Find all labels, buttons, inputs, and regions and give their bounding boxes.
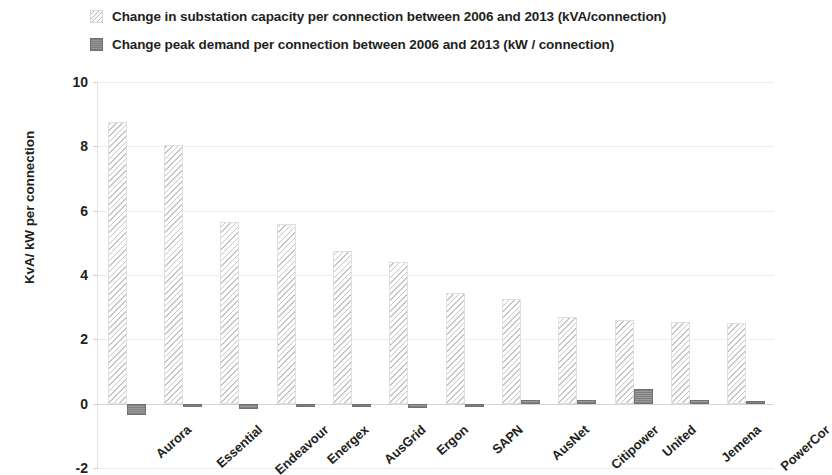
bar-capacity-sapn[interactable] xyxy=(446,293,465,404)
x-axis-label-powercor: PowerCor xyxy=(777,422,832,474)
y-tick-mark xyxy=(93,468,98,469)
bar-peak-demand-essential[interactable] xyxy=(183,404,202,407)
bar-capacity-powercor[interactable] xyxy=(727,323,746,403)
bar-capacity-essential[interactable] xyxy=(164,145,183,404)
y-tick-label: 8 xyxy=(80,138,88,154)
y-tick-label: -2 xyxy=(76,460,88,475)
bar-peak-demand-aurora[interactable] xyxy=(127,404,146,415)
bar-peak-demand-endeavour[interactable] xyxy=(239,404,258,409)
legend-item-peak-demand: Change peak demand per connection betwee… xyxy=(90,30,780,58)
plot-area: 1086420-2AuroraEssentialEndeavourEnergex… xyxy=(98,82,774,468)
bar-group xyxy=(323,82,379,468)
bar-peak-demand-sapn[interactable] xyxy=(465,404,484,407)
bar-capacity-ausgrid[interactable] xyxy=(333,251,352,404)
bar-capacity-energex[interactable] xyxy=(277,224,296,404)
bar-capacity-aurora[interactable] xyxy=(108,122,127,403)
bar-capacity-ausnet[interactable] xyxy=(502,299,521,404)
legend-swatch-capacity-icon xyxy=(90,10,103,23)
y-tick-label: 10 xyxy=(72,74,88,90)
bar-peak-demand-energex[interactable] xyxy=(296,404,315,407)
bar-capacity-endeavour[interactable] xyxy=(220,222,239,404)
legend-swatch-peak-demand-icon xyxy=(90,38,103,51)
y-axis-title: KvA/ kW per connection xyxy=(22,83,37,333)
y-tick-label: 0 xyxy=(80,396,88,412)
bar-capacity-citipower[interactable] xyxy=(558,317,577,404)
bar-group xyxy=(267,82,323,468)
bar-group xyxy=(605,82,661,468)
y-tick-label: 6 xyxy=(80,203,88,219)
gridline--2 xyxy=(98,468,774,469)
bar-group xyxy=(154,82,210,468)
bar-group xyxy=(436,82,492,468)
bar-group xyxy=(718,82,774,468)
legend-label-peak-demand: Change peak demand per connection betwee… xyxy=(112,37,614,52)
bar-peak-demand-citipower[interactable] xyxy=(577,400,596,403)
bar-peak-demand-ergon[interactable] xyxy=(408,404,427,408)
y-tick-label: 2 xyxy=(80,331,88,347)
bar-group xyxy=(549,82,605,468)
bar-group xyxy=(380,82,436,468)
bar-group xyxy=(661,82,717,468)
bar-group xyxy=(98,82,154,468)
bar-peak-demand-ausnet[interactable] xyxy=(521,400,540,403)
legend-label-capacity: Change in substation capacity per connec… xyxy=(112,9,666,24)
bar-peak-demand-united[interactable] xyxy=(634,389,653,403)
bar-capacity-united[interactable] xyxy=(615,320,634,404)
bar-peak-demand-powercor[interactable] xyxy=(746,401,765,404)
bar-peak-demand-jemena[interactable] xyxy=(690,400,709,403)
bar-group xyxy=(211,82,267,468)
chart-legend: Change in substation capacity per connec… xyxy=(90,2,780,58)
bar-capacity-ergon[interactable] xyxy=(389,262,408,404)
bar-peak-demand-ausgrid[interactable] xyxy=(352,404,371,407)
legend-item-capacity: Change in substation capacity per connec… xyxy=(90,2,780,30)
bar-group xyxy=(492,82,548,468)
bar-capacity-jemena[interactable] xyxy=(671,322,690,404)
y-tick-label: 4 xyxy=(80,267,88,283)
